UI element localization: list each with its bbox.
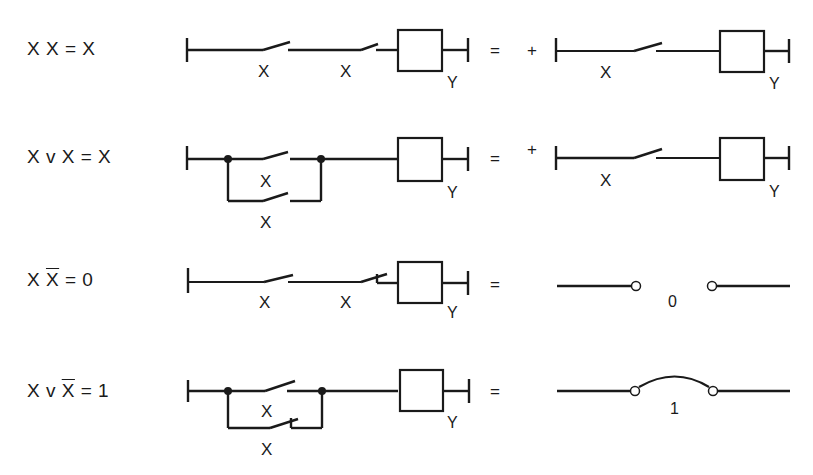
no-contact-x [264, 275, 293, 282]
contact-label-x: X [340, 293, 351, 312]
coil-label-y: Y [447, 304, 458, 321]
row4-right-circuit-closed [557, 377, 790, 396]
result-one: 1 [670, 400, 679, 417]
no-contact-x [263, 42, 290, 50]
plus-sign: + [527, 140, 537, 159]
open-terminal [708, 282, 717, 291]
row2-left-circuit [187, 138, 468, 201]
no-contact-x [634, 43, 662, 51]
contact-label-x: X [600, 63, 611, 82]
relay-coil-y [398, 30, 442, 71]
contact-label-x: X [259, 293, 270, 312]
coil-label-y: Y [447, 74, 458, 91]
relay-diagram: X X Y X Y X X Y X Y X X Y 0 X X Y 1 = + … [0, 0, 813, 475]
row3-right-circuit-open [557, 282, 790, 291]
closed-terminal [709, 387, 718, 396]
closed-terminal [631, 387, 640, 396]
contact-label-x: X [261, 402, 272, 421]
relay-coil-y [400, 370, 443, 411]
result-zero: 0 [668, 293, 677, 310]
coil-label-y: Y [769, 75, 780, 92]
closed-bridge [639, 377, 709, 388]
junction-dot [224, 387, 232, 395]
equals-sign: = [490, 382, 500, 401]
junction-dot [318, 387, 326, 395]
no-contact-x [265, 381, 295, 391]
contact-label-x: X [600, 171, 611, 190]
relay-coil-y [720, 138, 764, 180]
plus-sign: + [527, 41, 537, 60]
no-contact-x [361, 44, 378, 50]
no-contact-x [263, 152, 288, 159]
relay-coil-y [398, 138, 442, 181]
junction-dot [224, 155, 232, 163]
relay-coil-y [398, 262, 442, 303]
nc-contact-x [270, 419, 298, 428]
row2-right-circuit [556, 138, 789, 180]
row3-left-circuit [188, 262, 468, 303]
nc-contact-x [361, 274, 387, 282]
row1-left-circuit [187, 30, 468, 71]
relay-coil-y [720, 31, 764, 72]
row4-left-circuit [188, 370, 469, 428]
junction-dot [317, 155, 325, 163]
equals-sign: = [490, 149, 500, 168]
equals-sign: = [490, 41, 500, 60]
coil-label-y: Y [447, 184, 458, 201]
no-contact-x [634, 149, 662, 158]
no-contact-x [263, 193, 288, 201]
contact-label-x: X [258, 62, 269, 81]
contact-label-x: X [340, 62, 351, 81]
coil-label-y: Y [769, 183, 780, 200]
row1-right-circuit [556, 31, 789, 72]
contact-label-x: X [260, 172, 271, 191]
open-terminal [632, 282, 641, 291]
equals-sign: = [490, 275, 500, 294]
coil-label-y: Y [447, 414, 458, 431]
contact-label-x: X [261, 440, 272, 459]
contact-label-x: X [260, 213, 271, 232]
